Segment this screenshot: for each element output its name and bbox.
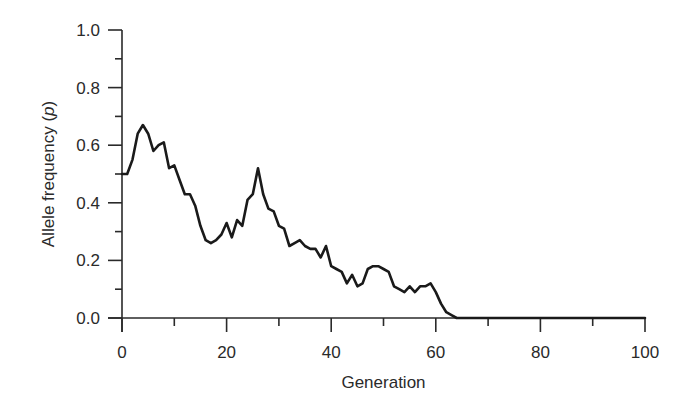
y-tick-label: 1.0 (76, 21, 100, 40)
x-tick-label: 20 (217, 343, 236, 362)
y-axis-title-variable: p (39, 106, 58, 116)
y-axis-title: Allele frequency (p) (39, 101, 58, 247)
x-axis-title: Generation (341, 373, 425, 392)
x-tick-label: 80 (531, 343, 550, 362)
x-tick-label: 40 (322, 343, 341, 362)
y-tick-label: 0.2 (76, 251, 100, 270)
x-tick-label: 100 (631, 343, 659, 362)
y-tick-label: 0.0 (76, 309, 100, 328)
y-axis-title-close: ) (39, 101, 58, 107)
allele-frequency-line (122, 125, 645, 318)
y-tick-label: 0.6 (76, 136, 100, 155)
y-ticks: 0.00.20.40.60.81.0 (76, 21, 122, 328)
y-axis-title-text: Allele frequency ( (39, 116, 58, 248)
y-tick-label: 0.4 (76, 194, 100, 213)
x-tick-label: 0 (117, 343, 126, 362)
x-tick-label: 60 (426, 343, 445, 362)
allele-frequency-chart: 0.00.20.40.60.81.0 020406080100 Generati… (0, 0, 691, 405)
x-ticks: 020406080100 (117, 318, 659, 362)
axes: 0.00.20.40.60.81.0 020406080100 (76, 21, 659, 362)
y-tick-label: 0.8 (76, 79, 100, 98)
